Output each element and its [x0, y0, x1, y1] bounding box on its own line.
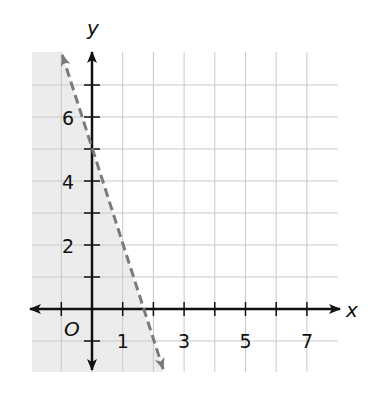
x-tick-label: 1: [117, 330, 129, 352]
y-tick-label: 2: [62, 235, 74, 257]
y-tick-label: 6: [62, 107, 74, 129]
y-tick-label: 4: [62, 171, 74, 193]
x-axis-label: x: [345, 298, 358, 322]
x-tick-label: 5: [240, 330, 252, 352]
shaded-region: [32, 52, 163, 372]
x-tick-label: 7: [301, 330, 313, 352]
coordinate-plane: 1357246 x y O: [0, 0, 372, 398]
y-axis-label: y: [86, 16, 100, 40]
x-tick-label: 3: [178, 330, 190, 352]
origin-label: O: [64, 317, 80, 341]
shaded-area: [32, 52, 163, 372]
